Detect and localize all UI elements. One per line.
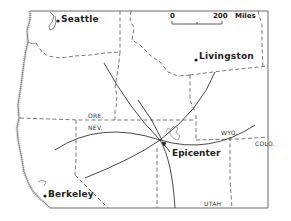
coastline (17, 11, 56, 208)
berkeley-dot (43, 194, 46, 197)
epicenter-label: Epicenter (172, 149, 220, 158)
state-label-utah: UTAH (204, 201, 221, 207)
lake-outline (166, 126, 180, 140)
scale-end-label: 200 (213, 13, 228, 20)
scale-bar (172, 21, 222, 24)
scale-unit-label: Miles (235, 13, 256, 20)
city-label-livingston: Livingston (199, 52, 254, 61)
livingston-dot (194, 58, 197, 61)
seattle-dot (56, 19, 59, 22)
map-frame (30, 11, 268, 208)
state-label-oregon: ORE. (88, 113, 104, 119)
state-borders (20, 11, 268, 208)
city-label-seattle: Seattle (61, 15, 99, 24)
city-label-berkeley: Berkeley (48, 190, 94, 199)
state-label-wyoming: WYO. (221, 130, 238, 136)
state-label-nevada: NEV. (88, 125, 103, 131)
state-label-colorado: COLO. (255, 141, 275, 147)
map-canvas (0, 0, 291, 221)
scale-start-label: 0 (170, 13, 175, 20)
